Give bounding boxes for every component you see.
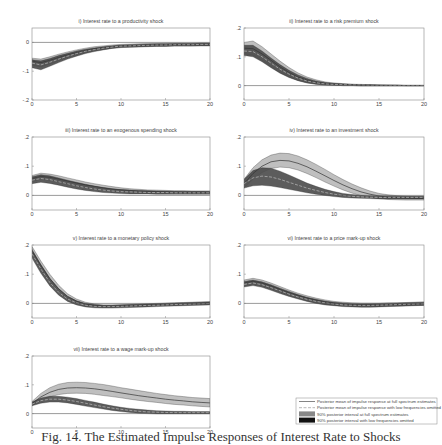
x-tick-label: 0	[30, 319, 33, 325]
low-freq-omitted-band	[32, 43, 210, 70]
y-tick-label: .1	[236, 271, 241, 277]
y-tick-label: .2	[24, 134, 29, 140]
x-tick-label: 20	[421, 211, 427, 217]
x-tick-label: 20	[207, 319, 213, 325]
low-freq-omitted-band	[32, 249, 210, 308]
legend-label: 90% posterior interval at full spectrum …	[317, 412, 408, 417]
legend-band-swatch-icon	[299, 418, 315, 423]
y-tick-label: 0	[238, 83, 241, 89]
x-tick-label: 15	[162, 101, 168, 107]
legend: Posterior mean of impulse response at fu…	[296, 398, 442, 424]
chart-title: iii) Interest rate to an exogenous spend…	[65, 127, 177, 133]
y-tick-label: .2	[24, 353, 29, 359]
x-tick-label: 10	[118, 211, 124, 217]
x-tick-label: 5	[287, 211, 290, 217]
legend-band-swatch-icon	[299, 411, 315, 416]
chart-title: i) Interest rate to a productivity shock	[79, 18, 164, 24]
plot-frame	[32, 137, 210, 210]
low-freq-omitted-mean-line	[32, 254, 210, 307]
x-tick-label: 5	[287, 101, 290, 107]
x-tick-label: 10	[331, 319, 337, 325]
x-tick-label: 10	[118, 319, 124, 325]
y-tick-label: .1	[24, 163, 29, 169]
x-tick-label: 0	[30, 211, 33, 217]
full-spectrum-band	[32, 382, 210, 407]
y-tick-label: 0	[26, 39, 29, 45]
x-tick-label: 0	[242, 211, 245, 217]
x-tick-label: 0	[30, 101, 33, 107]
x-tick-label: 5	[75, 101, 78, 107]
y-tick-label: -.1	[23, 68, 29, 74]
x-tick-label: 15	[376, 211, 382, 217]
y-tick-label: 0	[238, 300, 241, 306]
y-tick-label: .1	[24, 382, 29, 388]
x-tick-label: 15	[162, 211, 168, 217]
y-tick-label: 0	[26, 300, 29, 306]
x-tick-label: 0	[242, 101, 245, 107]
x-tick-label: 15	[376, 319, 382, 325]
y-tick-label: .2	[24, 242, 29, 248]
y-tick-label: 0	[26, 411, 29, 417]
y-tick-label: .1	[236, 163, 241, 169]
x-tick-label: 20	[421, 319, 427, 325]
x-tick-label: 10	[331, 101, 337, 107]
plot-frame	[244, 245, 424, 318]
legend-label: Posterior mean of impulse response with …	[317, 405, 442, 410]
chart-panel-2: ii) Interest rate to a risk premium shoc…	[236, 18, 427, 107]
chart-panel-5: v) Interest rate to a monetary policy sh…	[24, 235, 213, 325]
chart-title: vii) Interest rate to a wage mark-up sho…	[73, 346, 169, 352]
chart-panel-6: vi) Interest rate to a price mark-up sho…	[236, 235, 427, 325]
x-tick-label: 15	[376, 101, 382, 107]
y-tick-label: -.2	[23, 97, 29, 103]
y-tick-label: 0	[26, 192, 29, 198]
x-tick-label: 20	[421, 101, 427, 107]
x-tick-label: 5	[287, 319, 290, 325]
plot-frame	[32, 28, 210, 100]
full-spectrum-band	[32, 247, 210, 308]
x-tick-label: 15	[162, 319, 168, 325]
y-tick-label: .1	[24, 271, 29, 277]
low-freq-omitted-band	[244, 45, 424, 86]
x-tick-label: 20	[207, 211, 213, 217]
x-tick-label: 10	[331, 211, 337, 217]
y-tick-label: .2	[236, 242, 241, 248]
chart-title: ii) Interest rate to a risk premium shoc…	[289, 18, 379, 24]
y-tick-label: .2	[236, 134, 241, 140]
legend-label: Posterior mean of impulse response at fu…	[317, 399, 436, 404]
chart-panel-3: iii) Interest rate to an exogenous spend…	[24, 127, 213, 217]
chart-title: iv) Interest rate to an investment shock	[289, 127, 378, 133]
y-tick-label: .1	[236, 54, 241, 60]
y-tick-label: 0	[238, 192, 241, 198]
full-spectrum-mean-line	[32, 251, 210, 306]
chart-panel-4: iv) Interest rate to an investment shock…	[236, 127, 427, 217]
chart-panel-1: i) Interest rate to a productivity shock…	[23, 18, 213, 107]
x-tick-label: 0	[242, 319, 245, 325]
chart-title: vi) Interest rate to a price mark-up sho…	[288, 235, 381, 241]
legend-label: 90% posterior interval with low frequenc…	[317, 418, 414, 423]
y-tick-label: .2	[236, 25, 241, 31]
x-tick-label: 5	[75, 319, 78, 325]
chart-panel-7: vii) Interest rate to a wage mark-up sho…	[24, 346, 213, 435]
figure-caption: Fig. 14. The Estimated Impulse Responses…	[0, 429, 442, 445]
x-tick-label: 10	[118, 101, 124, 107]
x-tick-label: 5	[75, 211, 78, 217]
chart-title: v) Interest rate to a monetary policy sh…	[73, 235, 170, 241]
x-tick-label: 20	[207, 101, 213, 107]
